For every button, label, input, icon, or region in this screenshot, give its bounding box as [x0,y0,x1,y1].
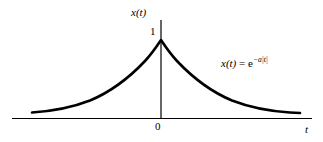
plot-area [0,0,323,142]
equation-exponent: −a|t| [253,55,268,64]
equation-lhs: x(t) [221,57,236,69]
exponential-decay-figure: x(t) 1 0 t x(t) = e−a|t| [0,0,323,142]
exponential-curve [32,40,300,113]
origin-label: 0 [155,121,161,132]
equation-annotation: x(t) = e−a|t| [221,58,268,69]
y-axis-tick-label-one: 1 [150,26,156,37]
y-axis-label: x(t) [131,7,146,18]
x-axis-label: t [305,124,308,135]
equation-equals: = [236,57,248,69]
